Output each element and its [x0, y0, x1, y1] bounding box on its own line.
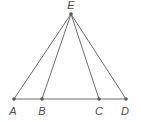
segment-e-d: [71, 14, 126, 99]
vertex-label-c: C: [95, 105, 103, 117]
segment-e-a: [14, 14, 71, 99]
vertex-point-a: [12, 97, 16, 101]
segment-e-c: [71, 14, 99, 99]
vertex-point-c: [97, 97, 101, 101]
segments-group: [14, 14, 126, 99]
vertex-label-d: D: [121, 105, 129, 117]
geometry-canvas: EABCD: [0, 0, 141, 122]
vertex-label-e: E: [67, 0, 75, 11]
points-group: [12, 12, 128, 101]
vertex-label-a: A: [8, 105, 16, 117]
vertex-point-d: [124, 97, 128, 101]
geometry-figure: EABCD: [0, 0, 141, 122]
vertex-point-e: [69, 12, 73, 16]
vertex-point-b: [40, 97, 44, 101]
segment-e-b: [42, 14, 71, 99]
vertex-label-b: B: [38, 105, 45, 117]
